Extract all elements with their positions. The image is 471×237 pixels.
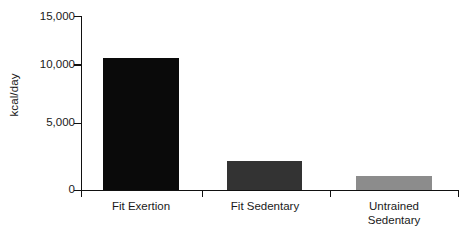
x-axis-label-untrained-sedentary: Untrained Sedentary bbox=[344, 200, 444, 227]
bar-fit-sedentary bbox=[227, 161, 302, 190]
x-axis-label-fit-exertion: Fit Exertion bbox=[91, 200, 191, 214]
bar-untrained-sedentary bbox=[356, 176, 432, 190]
x-axis-label-fit-sedentary: Fit Sedentary bbox=[215, 200, 315, 214]
bar-chart: kcal/day 15,000 10,000 5,000 0 Fit Exert… bbox=[0, 0, 471, 237]
bar-fit-exertion bbox=[103, 58, 179, 190]
